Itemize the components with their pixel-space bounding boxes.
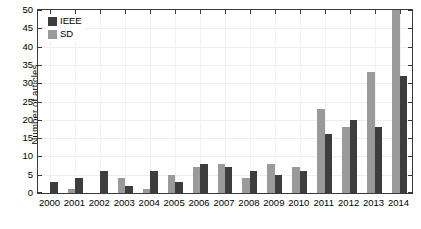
y-tick-label-30: 30 bbox=[3, 77, 33, 88]
x-tick-label-2004: 2004 bbox=[139, 197, 160, 208]
bar-ieee-2012 bbox=[350, 120, 357, 193]
x-tick-label-2014: 2014 bbox=[388, 197, 409, 208]
bar-ieee-2000 bbox=[50, 182, 57, 193]
bar-ieee-2004 bbox=[150, 171, 157, 193]
chart-legend: IEEE SD bbox=[46, 14, 85, 42]
bar-ieee-2010 bbox=[300, 171, 307, 193]
x-tick-label-2013: 2013 bbox=[363, 197, 384, 208]
bar-sd-2004 bbox=[143, 189, 150, 193]
y-tick-label-45: 45 bbox=[3, 22, 33, 33]
y-tick-label-15: 15 bbox=[3, 132, 33, 143]
x-axis-tick-labels: 2000200120022003200420052006200720082009… bbox=[37, 197, 413, 219]
y-tick-label-35: 35 bbox=[3, 58, 33, 69]
bar-sd-2001 bbox=[68, 189, 75, 193]
bar-ieee-2005 bbox=[175, 182, 182, 193]
figure-bar-chart: Number of articles 05101520253035404550 … bbox=[0, 0, 421, 229]
bar-sd-2011 bbox=[317, 109, 324, 193]
x-tick-label-2012: 2012 bbox=[338, 197, 359, 208]
bar-ieee-2002 bbox=[100, 171, 107, 193]
bar-sd-2007 bbox=[218, 164, 225, 193]
x-tick-label-2003: 2003 bbox=[114, 197, 135, 208]
bar-ieee-2014 bbox=[400, 76, 407, 193]
x-tick-label-2008: 2008 bbox=[238, 197, 259, 208]
bar-ieee-2003 bbox=[125, 186, 132, 193]
bar-sd-2009 bbox=[267, 164, 274, 193]
plot-area bbox=[37, 9, 413, 194]
x-tick-label-2007: 2007 bbox=[213, 197, 234, 208]
legend-item-ieee: IEEE bbox=[48, 15, 82, 27]
bar-sd-2008 bbox=[242, 178, 249, 193]
bar-ieee-2009 bbox=[275, 175, 282, 193]
bar-sd-2003 bbox=[118, 178, 125, 193]
legend-label-ieee: IEEE bbox=[60, 16, 82, 26]
y-tick-label-0: 0 bbox=[3, 187, 33, 198]
bar-sd-2012 bbox=[342, 127, 349, 193]
bar-ieee-2013 bbox=[375, 127, 382, 193]
bar-sd-2014 bbox=[392, 10, 399, 193]
bar-ieee-2008 bbox=[250, 171, 257, 193]
x-tick-label-2009: 2009 bbox=[263, 197, 284, 208]
legend-item-sd: SD bbox=[48, 28, 82, 40]
bar-sd-2013 bbox=[367, 72, 374, 193]
bar-ieee-2011 bbox=[325, 134, 332, 193]
x-tick-label-2005: 2005 bbox=[164, 197, 185, 208]
legend-swatch-sd bbox=[48, 30, 57, 39]
y-axis-tick-labels: 05101520253035404550 bbox=[0, 9, 33, 194]
x-tick-label-2000: 2000 bbox=[39, 197, 60, 208]
bar-sd-2010 bbox=[292, 167, 299, 193]
bar-ieee-2001 bbox=[75, 178, 82, 193]
y-tick-label-5: 5 bbox=[3, 168, 33, 179]
x-tick-label-2011: 2011 bbox=[314, 197, 334, 208]
bar-sd-2006 bbox=[193, 167, 200, 193]
y-tick-label-10: 10 bbox=[3, 150, 33, 161]
x-tick-label-2006: 2006 bbox=[188, 197, 209, 208]
x-tick-label-2001: 2001 bbox=[64, 197, 85, 208]
y-tick-label-40: 40 bbox=[3, 40, 33, 51]
x-tick-label-2002: 2002 bbox=[89, 197, 110, 208]
y-tick-label-50: 50 bbox=[3, 4, 33, 15]
legend-swatch-ieee bbox=[48, 17, 57, 26]
y-tick-label-25: 25 bbox=[3, 95, 33, 106]
y-tick-label-20: 20 bbox=[3, 113, 33, 124]
x-tick-label-2010: 2010 bbox=[288, 197, 309, 208]
bar-ieee-2007 bbox=[225, 167, 232, 193]
legend-label-sd: SD bbox=[60, 29, 73, 39]
bar-sd-2005 bbox=[168, 175, 175, 193]
bar-ieee-2006 bbox=[200, 164, 207, 193]
